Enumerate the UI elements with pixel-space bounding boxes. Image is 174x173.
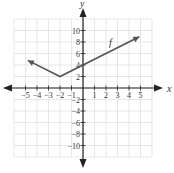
- axes: x y: [3, 0, 172, 168]
- y-tick-label: 8: [76, 38, 80, 47]
- coordinate-plane: x y −5−4−3−2−112345−10−8−6−4−2246810 f: [0, 0, 174, 173]
- x-axis-right-arrow-icon: [154, 85, 163, 92]
- x-axis-left-arrow-icon: [3, 85, 12, 92]
- x-axis-label: x: [166, 83, 172, 94]
- x-tick-label: 2: [104, 91, 108, 100]
- y-axis-up-arrow-icon: [80, 8, 87, 17]
- curve-label-f: f: [109, 37, 113, 48]
- y-tick-label: −2: [71, 96, 80, 105]
- y-tick-label: −8: [71, 130, 80, 139]
- x-tick-label: −4: [33, 91, 42, 100]
- y-axis-label: y: [79, 0, 85, 9]
- x-tick-label: −5: [21, 91, 30, 100]
- x-tick-label: 3: [116, 91, 120, 100]
- y-tick-label: −4: [71, 107, 80, 116]
- x-tick-label: −3: [44, 91, 53, 100]
- y-tick-label: 6: [76, 50, 80, 59]
- x-tick-label: 1: [93, 91, 97, 100]
- y-tick-label: −10: [67, 142, 80, 151]
- x-tick-label: −2: [56, 91, 65, 100]
- y-tick-label: 2: [76, 73, 80, 82]
- y-tick-label: 10: [72, 27, 80, 36]
- x-tick-label: 5: [139, 91, 143, 100]
- y-tick-label: −6: [71, 119, 80, 128]
- y-axis-down-arrow-icon: [80, 159, 87, 168]
- x-tick-label: 4: [127, 91, 131, 100]
